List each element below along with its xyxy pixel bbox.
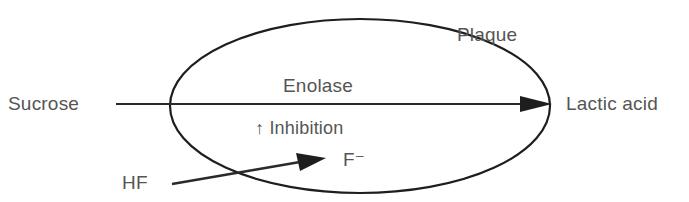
lactic-acid-arrowhead-icon: [520, 96, 552, 112]
fluoride-arrowhead-icon: [296, 153, 326, 171]
enolase-inhibition-diagram: Plaque Enolase Sucrose Lactic acid ↑ Inh…: [0, 0, 689, 202]
enolase-label: Enolase: [283, 76, 353, 95]
sucrose-label: Sucrose: [8, 94, 79, 113]
hf-label: HF: [122, 173, 148, 192]
plaque-label: Plaque: [457, 25, 517, 44]
hf-to-fluoride-line: [172, 162, 300, 184]
inhibition-label: ↑ Inhibition: [255, 119, 343, 137]
lactic-acid-label: Lactic acid: [566, 94, 658, 113]
fluoride-ion-label: F⁻: [343, 150, 365, 169]
